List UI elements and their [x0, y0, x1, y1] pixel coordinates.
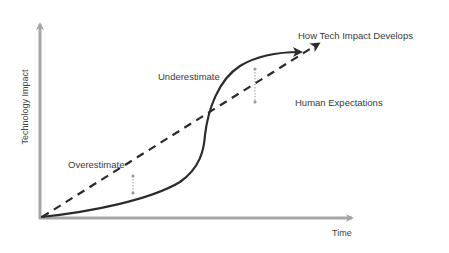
y-axis-label: Technology Impact — [20, 69, 30, 145]
x-axis-label: Time — [332, 228, 352, 238]
tech-impact-series-label: How Tech Impact Develops — [298, 30, 413, 41]
human-expectations-line — [42, 44, 318, 217]
tech-impact-diagram: Technology Impact Time How Tech Impact D… — [0, 0, 449, 253]
overestimate-label: Overestimate — [68, 159, 125, 170]
human-expectations-series-label: Human Expectations — [295, 97, 383, 108]
underestimate-label: Underestimate — [158, 71, 220, 82]
